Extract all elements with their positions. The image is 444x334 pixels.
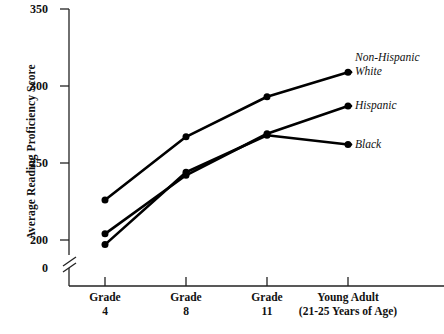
x-tick-label-young-adult: Young Adult (21-25 Years of Age) — [278, 290, 418, 318]
data-point-marker — [102, 241, 109, 248]
data-point-marker — [264, 132, 271, 139]
data-point-marker — [183, 169, 190, 176]
y-tick-label-300: 300 — [8, 79, 48, 94]
series-group — [102, 69, 352, 248]
reading-proficiency-chart: Average Reading Proficiency Score 350 30… — [0, 0, 444, 334]
series-label-hispanic: Hispanic — [355, 99, 397, 113]
y-tick-label-0: 0 — [8, 261, 48, 276]
data-point-marker — [102, 230, 109, 237]
data-point-marker — [102, 196, 109, 203]
x-tick-label-young-adult-line2: (21-25 Years of Age) — [278, 304, 418, 318]
data-point-marker — [264, 93, 271, 100]
x-tick-label-grade-4-line2: 4 — [65, 304, 145, 318]
y-tick-label-250: 250 — [8, 156, 48, 171]
series-label-non-hispanic-white: Non-Hispanic White — [355, 51, 420, 78]
series-label-non-hispanic-white-line1: Non-Hispanic — [355, 51, 420, 63]
x-tick-label-grade-8: Grade 8 — [146, 290, 226, 318]
y-tick-label-200: 200 — [8, 233, 48, 248]
x-tick-label-grade-8-line2: 8 — [146, 304, 226, 318]
series-line-black — [105, 135, 348, 244]
series-label-black: Black — [355, 138, 381, 152]
x-tick-label-young-adult-line1: Young Adult — [317, 291, 379, 303]
x-tick-label-grade-8-line1: Grade — [170, 291, 201, 303]
series-label-non-hispanic-white-line2: White — [355, 65, 420, 79]
y-tick-label-350: 350 — [8, 2, 48, 17]
x-tick-label-grade-4-line1: Grade — [89, 291, 120, 303]
x-tick-label-grade-4: Grade 4 — [65, 290, 145, 318]
series-line-non-hispanic-white — [105, 72, 348, 200]
data-point-marker — [183, 133, 190, 140]
